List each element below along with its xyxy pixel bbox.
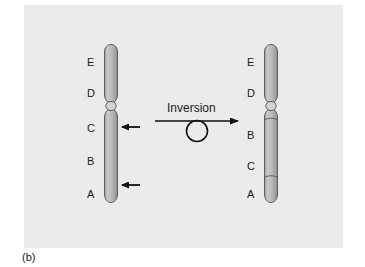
segment-label-after-A: A: [247, 189, 254, 200]
chromosome-before-upper-arm: [105, 45, 118, 103]
chromosome-inversion-figure: E D C B A E D B C A Inversion (b): [0, 0, 365, 267]
centromere-before: [106, 101, 116, 110]
chromosome-after-graphic: [265, 45, 278, 203]
segment-label-after-D: D: [247, 88, 255, 99]
chromosome-after-upper-arm: [265, 45, 278, 103]
segment-label-after-E: E: [247, 57, 254, 68]
segment-label-before-B: B: [87, 156, 94, 167]
inversion-label: Inversion: [167, 101, 216, 115]
centromere-after: [266, 101, 276, 110]
segment-label-before-C: C: [87, 123, 95, 134]
segment-label-before-E: E: [87, 57, 94, 68]
segment-label-after-C: C: [247, 161, 255, 172]
figure-caption: (b): [22, 251, 35, 263]
inversion-arrow-graphic: [155, 121, 238, 142]
figure-drawing-layer: [0, 0, 365, 267]
chromosome-before-lower-arm: [105, 110, 118, 203]
chromosome-after-lower-arm: [265, 110, 278, 203]
inversion-loop-circle-icon: [187, 121, 208, 142]
segment-label-after-B: B: [247, 130, 254, 141]
breakpoint-arrows-before: [122, 127, 140, 185]
segment-label-before-D: D: [87, 88, 95, 99]
segment-label-before-A: A: [87, 189, 94, 200]
chromosome-before-graphic: [105, 45, 118, 203]
